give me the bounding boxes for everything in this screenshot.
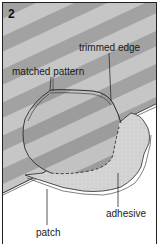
label-patch: patch: [36, 228, 60, 238]
label-adhesive: adhesive: [106, 209, 146, 219]
step-number: 2: [8, 8, 15, 20]
label-matched-pattern: matched pattern: [12, 67, 84, 77]
label-trimmed-edge: trimmed edge: [79, 43, 140, 53]
matched-patch: [23, 90, 119, 174]
diagram-frame: 2 trimmed edge matched pattern adhesive …: [2, 2, 157, 244]
